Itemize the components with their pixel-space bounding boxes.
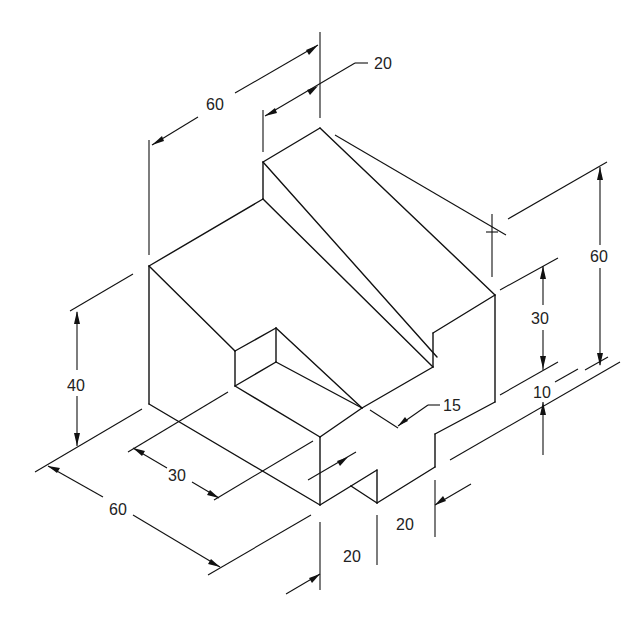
label-top-width: 60 [206,96,224,113]
label-total-height: 60 [590,248,608,265]
object-edges [149,128,495,505]
label-right-foot-width: 20 [396,516,414,533]
isometric-drawing: 60 20 60 30 10 15 40 30 60 20 20 [0,0,638,622]
label-top-step: 20 [374,55,392,72]
label-base-length: 60 [109,501,127,518]
dimension-labels: 60 20 60 30 10 15 40 30 60 20 20 [67,55,608,565]
label-right-height: 30 [531,310,549,327]
label-slot-depth: 15 [443,397,461,414]
label-front-foot-width: 20 [343,548,361,565]
label-step-height: 10 [533,384,551,401]
label-left-height: 40 [67,377,85,394]
label-notch-width: 30 [168,467,186,484]
